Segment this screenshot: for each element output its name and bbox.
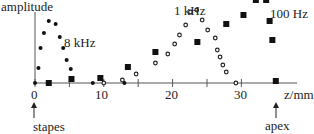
data-point [206, 28, 210, 32]
data-point [194, 39, 200, 45]
data-point [263, 0, 269, 3]
data-point [269, 37, 275, 43]
data-point [91, 81, 95, 85]
data-point [253, 0, 259, 3]
data-point [178, 33, 182, 37]
tick-label-30: 30 [234, 88, 247, 101]
stapes-arrow-icon [31, 102, 37, 118]
data-point [33, 81, 37, 85]
x-axis-label: z/mm [284, 88, 314, 101]
tick-label-0: 0 [31, 88, 38, 101]
stapes-label: stapes [33, 120, 65, 133]
data-point [102, 81, 106, 85]
data-point [69, 67, 73, 71]
data-point [97, 75, 103, 81]
data-point [46, 80, 52, 86]
data-point [221, 63, 225, 67]
data-point [184, 23, 188, 27]
data-point [213, 36, 217, 40]
data-point [154, 61, 158, 65]
data-point [65, 58, 69, 62]
series-label-8khz: 8 kHz [64, 36, 95, 49]
series-label-1khz: 1 kHz [174, 4, 205, 17]
data-point [166, 52, 170, 56]
tick-label-20: 20 [165, 88, 178, 101]
data-point [58, 35, 62, 39]
data-point [152, 49, 158, 55]
data-point [125, 64, 131, 70]
apex-arrow-icon [273, 102, 279, 118]
data-point [36, 66, 40, 70]
data-point [234, 81, 238, 85]
data-point [47, 19, 51, 23]
apex-label: apex [265, 119, 290, 132]
data-point [173, 42, 177, 46]
data-point [240, 12, 246, 18]
data-point [121, 78, 125, 82]
data-point [273, 78, 279, 84]
y-axis-label: amplitude [1, 0, 53, 13]
data-point [39, 46, 43, 50]
data-point [223, 21, 229, 27]
data-point [134, 72, 138, 76]
data-point [224, 70, 228, 74]
data-point [218, 55, 222, 59]
data-point [68, 76, 74, 82]
chart-canvas [0, 0, 314, 134]
data-point [216, 48, 220, 52]
data-point [54, 22, 58, 26]
data-point [200, 18, 204, 22]
data-point [42, 31, 46, 35]
tick-label-10: 10 [95, 88, 108, 101]
series-label-100hz: 100 Hz [270, 7, 308, 20]
